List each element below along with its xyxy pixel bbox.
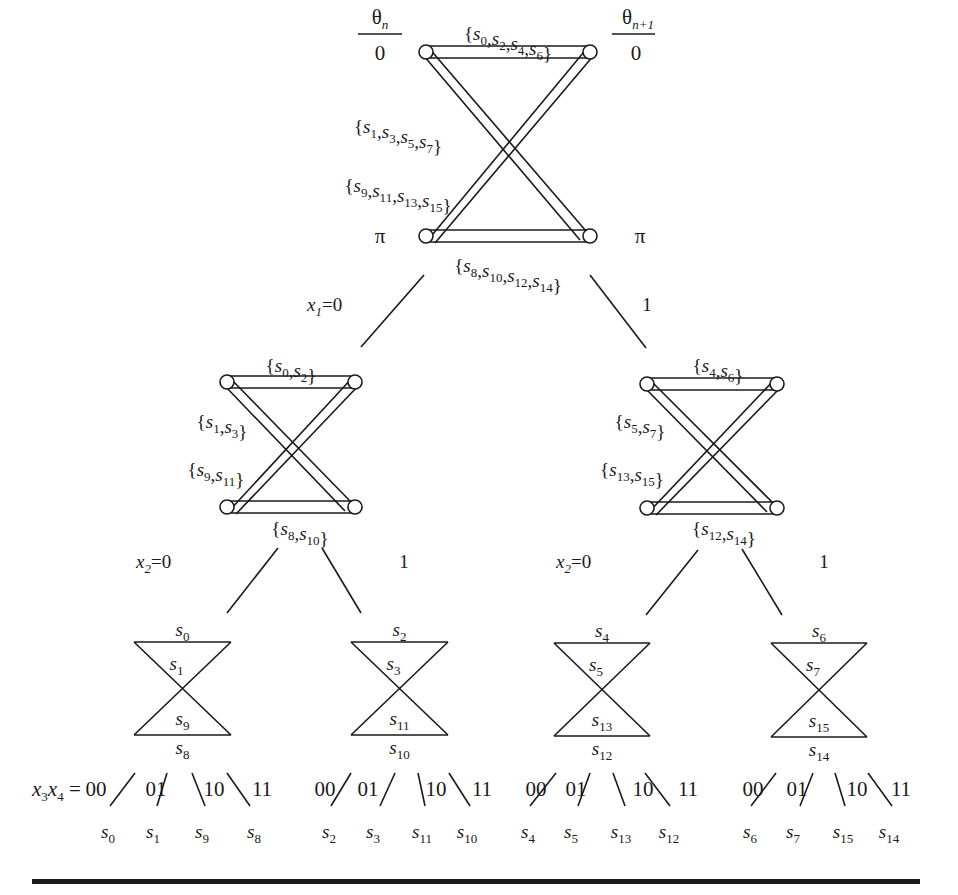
- level2-cross1-state: s5: [589, 654, 603, 679]
- level2-cross2-state: s15: [809, 710, 829, 735]
- level2-top-state: s6: [812, 620, 826, 645]
- leaf-state-label: s12: [659, 821, 679, 846]
- level2-cross1-state: s1: [170, 653, 184, 678]
- level2-bottom-state: s12: [592, 738, 612, 763]
- butterfly-tree-diagram: θn0πθn+10π{s0,s2,s4,s6}{s1,s3,s5,s7}{s9,…: [0, 0, 958, 895]
- level1-top-set: {s0,s2}: [266, 355, 317, 386]
- branch-x2-left-label: x2=0: [555, 551, 591, 576]
- level2-top-state: s2: [393, 619, 407, 644]
- diagram-shapes: [32, 34, 920, 884]
- level1-cross2-set: {s9,s11}: [188, 459, 245, 490]
- level1-bottom-set: {s8,s10}: [271, 518, 328, 549]
- node-circle: [583, 45, 597, 59]
- branch-x2-right-edge: [322, 548, 361, 613]
- level1-butterfly-0-diag: [236, 385, 359, 514]
- branch-x3x4-code-label: 11: [252, 777, 272, 801]
- branch-x3x4-code-label: 01: [787, 777, 808, 801]
- level2-cross2-state: s13: [592, 709, 612, 734]
- leaf-state-label: s15: [833, 821, 853, 846]
- node-circle: [220, 500, 234, 514]
- branch-x3x4-code-label: 00: [86, 777, 107, 801]
- node-circle: [770, 377, 784, 391]
- leaf-state-label: s9: [195, 821, 209, 846]
- theta-n1-label: θn+1: [622, 5, 654, 32]
- branch-x3x4-code-label: 01: [358, 777, 379, 801]
- branch-x3x4-edge: [227, 773, 250, 806]
- level2-top-state: s0: [176, 619, 190, 644]
- node-circle: [419, 229, 433, 243]
- level2-cross1-state: s3: [387, 653, 401, 678]
- level0-cross2-set: {s9,s11,s13,s15}: [344, 175, 451, 216]
- branch-x3x4-variable-label: x3x4 =: [31, 777, 81, 804]
- level1-butterfly-1-diag: [656, 387, 781, 515]
- branch-x2-right-edge: [742, 549, 782, 615]
- branch-x2-right-label: 1: [819, 551, 829, 572]
- leaf-state-label: s10: [457, 821, 477, 846]
- branch-x2-left-edge: [227, 548, 278, 613]
- branch-x1-left-label: x1=0: [306, 294, 342, 319]
- theta-n1-value-bottom: π: [635, 224, 646, 248]
- node-circle: [348, 500, 362, 514]
- level1-cross1-set: {s1,s3}: [197, 411, 248, 442]
- level2-bottom-state: s14: [809, 739, 830, 764]
- branch-x3x4-code-label: 11: [891, 777, 911, 801]
- level1-cross2-set: {s13,s15}: [600, 459, 664, 490]
- theta-n1-value-top: 0: [631, 41, 642, 65]
- branch-x3x4-code-label: 01: [566, 777, 587, 801]
- branch-x2-right-label: 1: [399, 551, 409, 572]
- branch-x3x4-code-label: 10: [204, 777, 225, 801]
- level1-cross1-set: {s5,s7}: [615, 411, 666, 442]
- level1-butterfly-1-diag: [649, 379, 773, 503]
- branch-x3x4-edge: [613, 773, 625, 806]
- level1-top-set: {s4,s6}: [693, 355, 744, 386]
- branch-x3x4-code-label: 00: [743, 777, 764, 801]
- branch-x3x4-code-label: 10: [633, 777, 654, 801]
- node-circle: [770, 501, 784, 515]
- leaf-state-label: s8: [247, 821, 261, 846]
- branch-x3x4-edge: [380, 773, 395, 806]
- diagram-labels: θn0πθn+10π{s0,s2,s4,s6}{s1,s3,s5,s7}{s9,…: [31, 5, 911, 846]
- level0-butterfly-diag: [428, 47, 586, 231]
- branch-x3x4-edge: [418, 773, 425, 806]
- level2-cross2-state: s9: [176, 708, 190, 733]
- branch-x3x4-code-label: 00: [526, 777, 547, 801]
- branch-x3x4-code-label: 10: [426, 777, 447, 801]
- level2-bottom-state: s8: [176, 737, 190, 762]
- branch-x3x4-code-label: 11: [678, 777, 698, 801]
- leaf-state-label: s3: [366, 821, 380, 846]
- leaf-state-label: s13: [611, 821, 631, 846]
- leaf-state-label: s4: [521, 821, 535, 846]
- node-circle: [348, 375, 362, 389]
- branch-x2-left-label: x2=0: [135, 551, 171, 576]
- level0-cross1-set: {s1,s3,s5,s7}: [354, 116, 442, 157]
- node-circle: [640, 377, 654, 391]
- leaf-state-label: s14: [879, 821, 900, 846]
- node-circle: [640, 501, 654, 515]
- level2-cross1-state: s7: [806, 654, 820, 679]
- leaf-state-label: s11: [412, 821, 432, 846]
- branch-x1-right-edge: [590, 275, 646, 348]
- branch-x3x4-edge: [835, 773, 845, 806]
- branch-x1-right-label: 1: [642, 294, 652, 315]
- branch-x2-left-edge: [646, 550, 698, 615]
- branch-x1-left-edge: [361, 275, 424, 347]
- leaf-state-label: s6: [743, 821, 757, 846]
- node-circle: [583, 229, 597, 243]
- leaf-state-label: s5: [564, 821, 578, 846]
- leaf-state-label: s1: [146, 821, 160, 846]
- theta-n-value-bottom: π: [375, 224, 386, 248]
- theta-n-value-top: 0: [375, 41, 386, 65]
- branch-x3x4-edge: [868, 773, 892, 806]
- level2-top-state: s4: [595, 620, 609, 645]
- bottom-rule-divider: [32, 879, 920, 884]
- level2-cross2-state: s11: [390, 708, 410, 733]
- node-circle: [419, 45, 433, 59]
- branch-x3x4-code-label: 11: [472, 777, 492, 801]
- leaf-state-label: s7: [786, 821, 800, 846]
- leaf-state-label: s2: [322, 821, 336, 846]
- node-circle: [220, 375, 234, 389]
- theta-n-label: θn: [372, 5, 389, 32]
- branch-x3x4-code-label: 00: [315, 777, 336, 801]
- branch-x3x4-code-label: 10: [847, 777, 868, 801]
- branch-x3x4-edge: [449, 773, 470, 806]
